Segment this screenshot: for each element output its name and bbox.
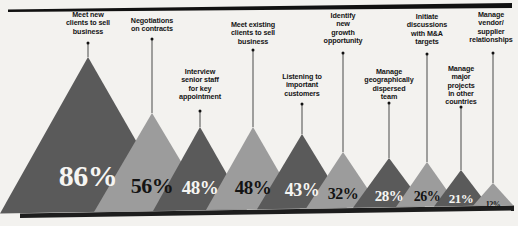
peak-label: Interview senior staff for key appointme… bbox=[179, 68, 221, 101]
peak-label: Identify new growth opportunity bbox=[324, 12, 363, 45]
peak-leader-dot bbox=[492, 52, 495, 55]
peak-label: Manage vendor/ supplier relationships bbox=[469, 11, 512, 44]
peak-value-label: 86% bbox=[59, 159, 118, 193]
peak-value-label: 28% bbox=[375, 188, 404, 205]
peak-leader-dot bbox=[426, 53, 429, 56]
peak-leader-line bbox=[152, 39, 153, 113]
peak-label: Initiate discussions with M&A targets bbox=[407, 13, 447, 46]
peak-leader-line bbox=[88, 43, 89, 57]
peak-leader-line bbox=[461, 107, 462, 170]
peak-leader-line bbox=[253, 50, 254, 127]
peak-leader-line bbox=[343, 53, 344, 152]
peak-value-label: 12% bbox=[486, 200, 501, 209]
peak-label: Manage geographically dispersed team bbox=[364, 68, 413, 101]
peak-label: Meet new clients to sell business bbox=[66, 11, 110, 36]
peak-leader-dot bbox=[151, 38, 154, 41]
peak-label: Meet existing clients to sell business bbox=[231, 21, 275, 46]
peak-label: Negotiations on contracts bbox=[131, 17, 173, 34]
peak-value-label: 48% bbox=[182, 177, 219, 199]
peak-leader-line bbox=[427, 54, 428, 162]
peak-value-label: 21% bbox=[449, 191, 474, 207]
peak-leader-dot bbox=[252, 49, 255, 52]
peak-value-label: 56% bbox=[131, 173, 174, 199]
peak-leader-dot bbox=[199, 110, 202, 113]
peak-leader-line bbox=[200, 111, 201, 127]
peak-leader-dot bbox=[87, 42, 90, 45]
peak-value-label: 32% bbox=[328, 185, 359, 203]
peak-value-label: 43% bbox=[285, 180, 320, 201]
peak-leader-line bbox=[389, 103, 390, 158]
peak-value-label: 26% bbox=[414, 189, 441, 205]
peak-label: Listening to important customers bbox=[282, 73, 322, 98]
peak-label: Manage major projects in other countries bbox=[445, 65, 476, 106]
peak-leader-line bbox=[302, 104, 303, 134]
chart-canvas: Meet new clients to sell business86%Nego… bbox=[0, 0, 518, 226]
peak-leader-dot bbox=[342, 52, 345, 55]
peak-value-label: 48% bbox=[235, 177, 272, 199]
peak-leader-dot bbox=[301, 103, 304, 106]
peak-leader-dot bbox=[388, 102, 391, 105]
peak-leader-line bbox=[493, 53, 494, 183]
